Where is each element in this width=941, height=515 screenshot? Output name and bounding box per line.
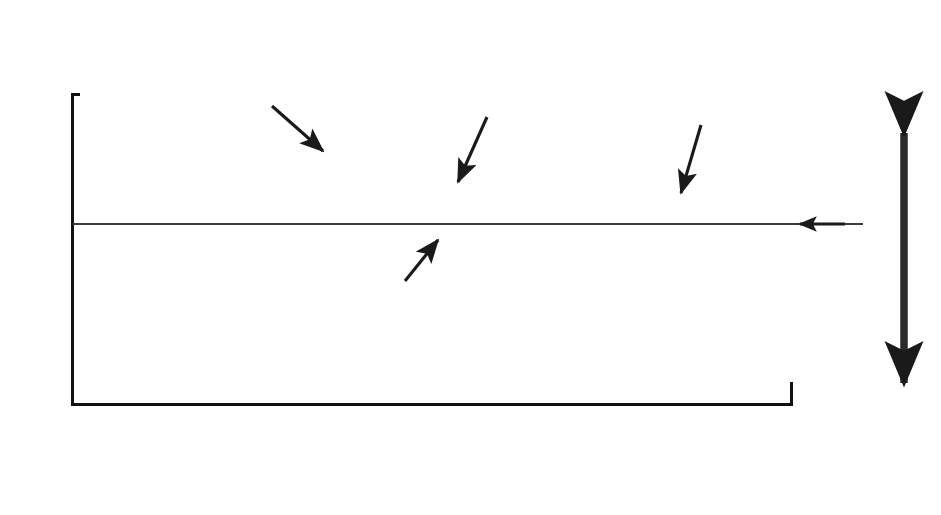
arrow-41k-cycles <box>458 117 487 182</box>
arrow-100k-cycles <box>681 125 701 193</box>
arrow-start-northern-ice-ages <box>405 240 438 281</box>
arrow-antarctica <box>272 106 323 151</box>
annotation-arrows <box>0 0 941 515</box>
